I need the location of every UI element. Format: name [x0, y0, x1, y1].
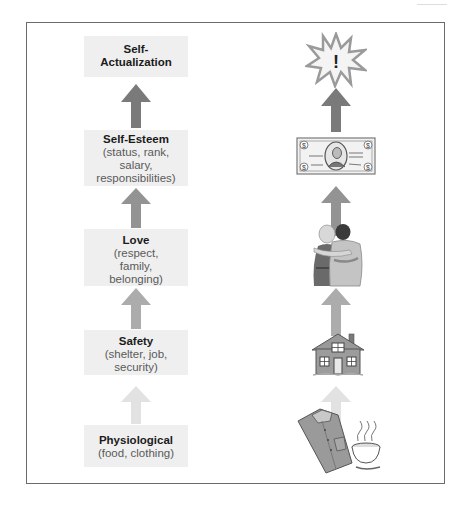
page-marker: [417, 4, 447, 5]
level-self-esteem: Self-Esteem (status, rank, salary, respo…: [84, 130, 188, 186]
level-description: (food, clothing): [86, 447, 186, 460]
level-safety: Safety (shelter, job, security): [84, 330, 188, 375]
up-arrow-icon: [320, 88, 352, 132]
dollar-bill-icon: $ $ $ $: [296, 137, 376, 175]
level-description: responsibilities): [86, 172, 186, 185]
level-title: Physiological: [86, 434, 186, 447]
dollar-sign: $: [366, 142, 370, 149]
soup-bowl-icon: [352, 421, 380, 469]
up-arrow-icon: [120, 188, 152, 228]
dollar-sign: $: [302, 142, 306, 149]
level-description: security): [86, 361, 186, 374]
up-arrow-icon: [320, 288, 352, 336]
level-description: (shelter, job,: [86, 348, 186, 361]
up-arrow-icon: [120, 386, 152, 424]
level-description: salary,: [86, 159, 186, 172]
level-love: Love (respect, family, belonging): [84, 229, 188, 286]
level-physiological: Physiological (food, clothing): [84, 425, 188, 467]
embracing-couple-icon: [310, 224, 366, 294]
level-description: (respect,: [86, 247, 186, 260]
starburst-exclamation-icon: !: [305, 32, 367, 88]
level-title: Safety: [86, 335, 186, 348]
up-arrow-icon: [120, 288, 152, 329]
level-title: Actualization: [86, 56, 186, 69]
level-title: Self-Esteem: [86, 133, 186, 146]
dollar-sign: $: [302, 164, 306, 171]
level-description: family,: [86, 260, 186, 273]
folded-shirt-icon: [298, 409, 352, 473]
level-self-actualization: Self- Actualization: [84, 36, 188, 77]
level-title: Love: [86, 234, 186, 247]
shirt-and-soup-icon: [292, 405, 382, 475]
level-description: belonging): [86, 273, 186, 286]
exclamation-mark: !: [333, 52, 339, 72]
up-arrow-icon: [120, 84, 152, 128]
level-title: Self-: [86, 43, 186, 56]
house-icon: [311, 332, 365, 377]
dollar-sign: $: [366, 164, 370, 171]
level-description: (status, rank,: [86, 146, 186, 159]
